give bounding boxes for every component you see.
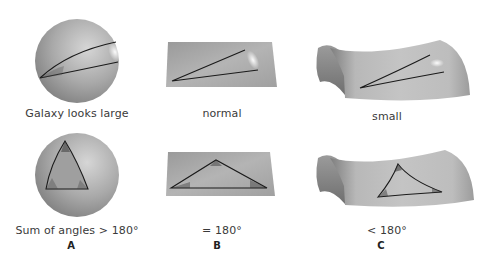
label-b-bottom: = 180° [202,224,242,237]
galaxy-glow [430,59,444,67]
panel-letter-a: A [67,240,75,251]
label-c-top: small [372,110,402,123]
saddle-top [316,40,470,100]
label-c-bottom: < 180° [367,224,407,237]
saddle-bottom [316,150,474,207]
label-a-top: Galaxy looks large [25,107,128,120]
saddle-surface [330,150,474,207]
plane-bottom [166,152,275,196]
label-b-top: normal [202,107,241,120]
panel-letter-b: B [213,240,221,251]
plane-top [166,42,277,87]
panel-letter-c: C [377,240,384,251]
sphere-bottom [35,133,119,217]
label-a-bottom: Sum of angles > 180° [15,224,138,237]
sphere-top [35,19,124,103]
